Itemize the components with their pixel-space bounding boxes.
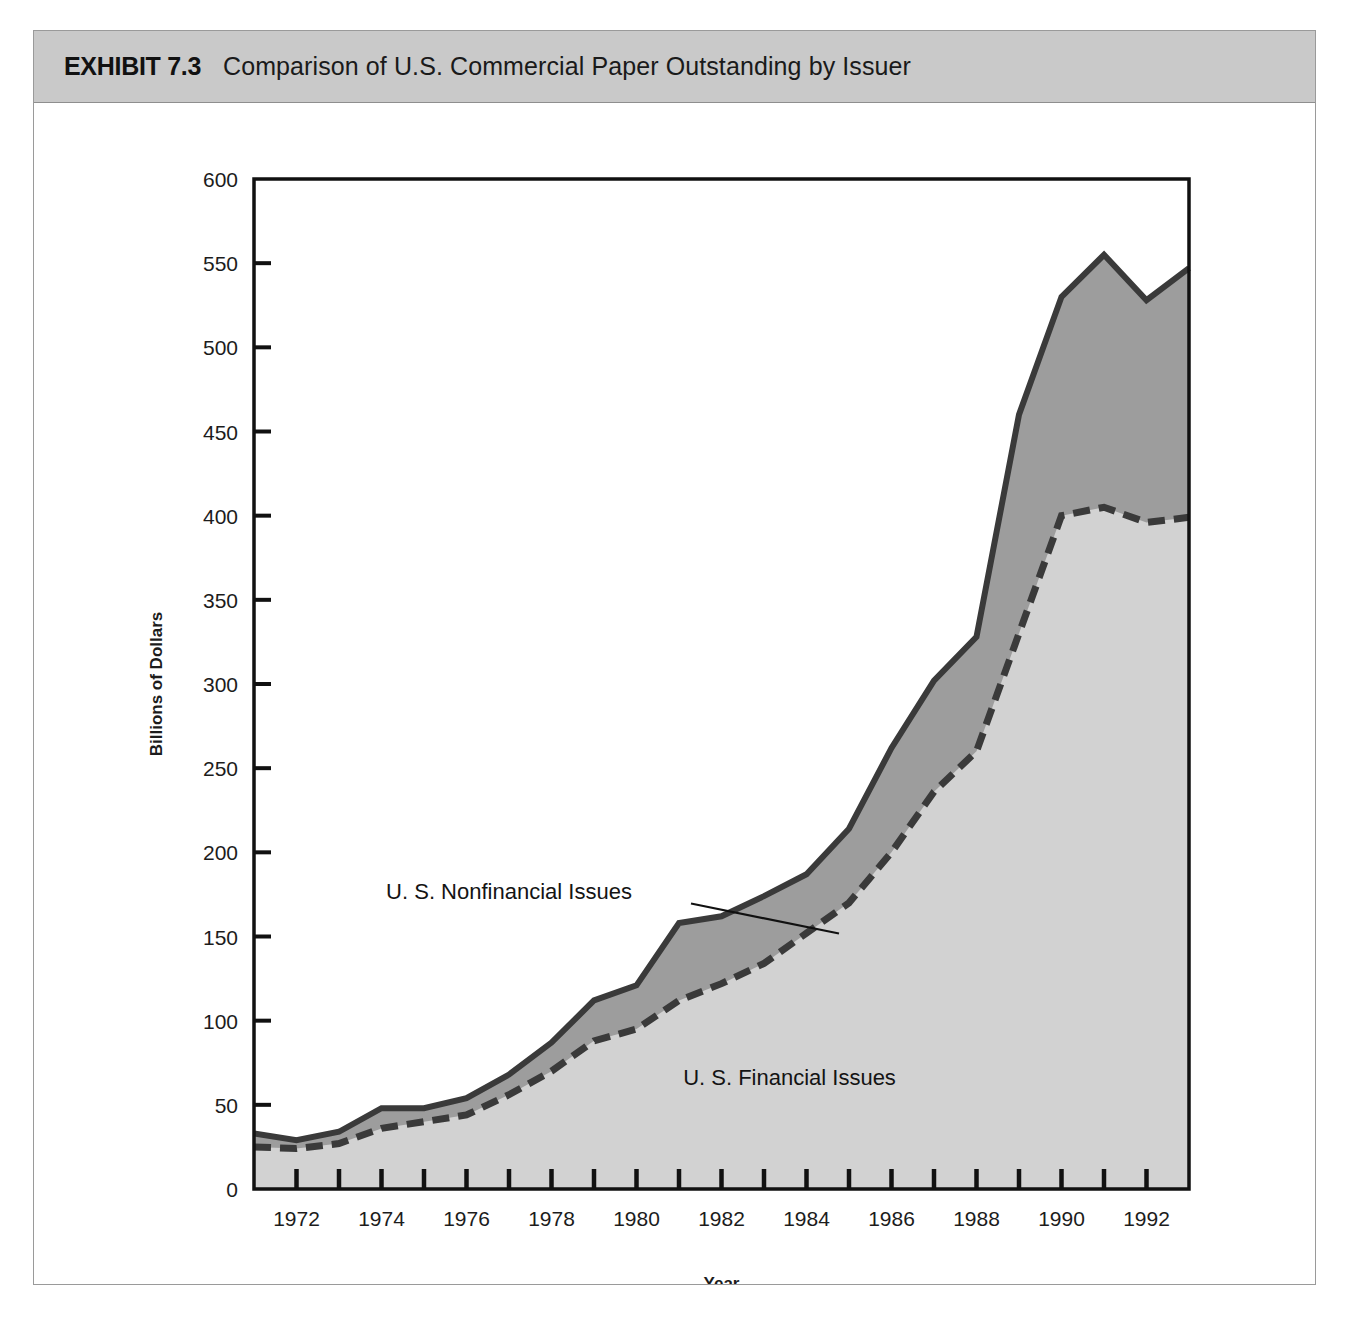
- x-tick-label: 1984: [783, 1207, 830, 1230]
- exhibit-title: Comparison of U.S. Commercial Paper Outs…: [223, 52, 911, 81]
- y-tick-label: 550: [203, 252, 238, 275]
- x-tick-label: 1992: [1123, 1207, 1170, 1230]
- y-tick-label: 350: [203, 589, 238, 612]
- y-tick-label: 600: [203, 168, 238, 191]
- x-tick-label: 1974: [358, 1207, 405, 1230]
- y-tick-label: 300: [203, 673, 238, 696]
- y-axis-title: Billions of Dollars: [147, 612, 166, 757]
- plot-fills: [254, 255, 1189, 1189]
- y-tick-label: 250: [203, 757, 238, 780]
- exhibit-frame: EXHIBIT 7.3 Comparison of U.S. Commercia…: [33, 30, 1316, 1285]
- x-tick-label: 1972: [273, 1207, 320, 1230]
- nonfinancial-series-label: U. S. Nonfinancial Issues: [386, 879, 632, 904]
- x-tick-label: 1980: [613, 1207, 660, 1230]
- y-tick-label: 400: [203, 505, 238, 528]
- x-tick-label: 1986: [868, 1207, 915, 1230]
- x-tick-label: 1976: [443, 1207, 490, 1230]
- chart-canvas: 0501001502002503003504004505005506001972…: [34, 103, 1315, 1284]
- exhibit-header: EXHIBIT 7.3 Comparison of U.S. Commercia…: [34, 31, 1315, 103]
- y-tick-label: 150: [203, 926, 238, 949]
- exhibit-page: EXHIBIT 7.3 Comparison of U.S. Commercia…: [0, 0, 1349, 1320]
- x-tick-label: 1990: [1038, 1207, 1085, 1230]
- y-tick-label: 450: [203, 421, 238, 444]
- y-tick-label: 50: [215, 1094, 238, 1117]
- exhibit-number: EXHIBIT 7.3: [64, 52, 201, 81]
- y-tick-label: 200: [203, 841, 238, 864]
- x-tick-label: 1978: [528, 1207, 575, 1230]
- x-tick-label: 1982: [698, 1207, 745, 1230]
- financial-series-label: U. S. Financial Issues: [683, 1065, 896, 1090]
- y-tick-label: 100: [203, 1010, 238, 1033]
- y-tick-label: 0: [226, 1178, 238, 1201]
- x-tick-label: 1988: [953, 1207, 1000, 1230]
- area-chart: 0501001502002503003504004505005506001972…: [34, 103, 1315, 1284]
- x-axis-title: Year: [704, 1274, 740, 1284]
- y-tick-label: 500: [203, 336, 238, 359]
